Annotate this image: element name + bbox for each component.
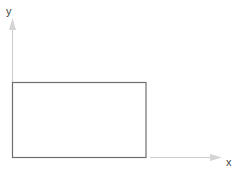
diagram-canvas [0,0,237,192]
y-axis-arrowhead-icon [9,18,16,30]
y-axis-label: y [6,6,12,17]
x-axis-label: x [226,157,232,168]
rectangle-shape [13,83,147,158]
x-axis-arrowhead-icon [210,154,222,161]
